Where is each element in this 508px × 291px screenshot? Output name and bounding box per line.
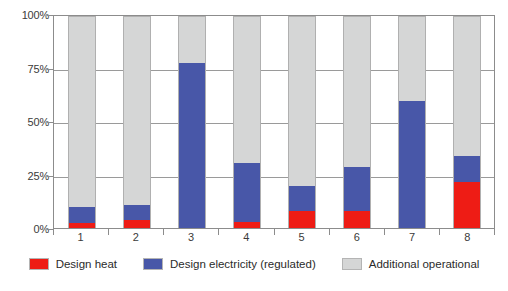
legend-label-design-heat: Design heat <box>56 258 117 270</box>
segment-additional-operational-4[interactable] <box>234 16 260 163</box>
segment-design-electricity-1[interactable] <box>69 207 95 223</box>
bar-slot-2 <box>109 16 164 228</box>
bar-slot-3 <box>164 16 219 228</box>
bar-slot-7 <box>384 16 439 228</box>
x-axis-label-4: 4 <box>219 231 274 243</box>
legend-swatch-additional-operational <box>342 258 362 270</box>
segment-additional-operational-6[interactable] <box>344 16 370 167</box>
y-axis: 100% 75% 50% 25% 0% <box>0 0 49 291</box>
stacked-bar-chart: 100% 75% 50% 25% 0% 12345678 Design heat… <box>0 0 508 291</box>
segment-additional-operational-1[interactable] <box>69 16 95 207</box>
bar-slot-4 <box>219 16 274 228</box>
legend-swatch-design-heat <box>29 258 49 270</box>
segment-additional-operational-7[interactable] <box>399 16 425 101</box>
segment-design-electricity-7[interactable] <box>399 101 425 228</box>
bar-6[interactable] <box>343 16 371 228</box>
legend-label-additional-operational: Additional operational <box>369 258 480 270</box>
legend-item-design-heat[interactable]: Design heat <box>29 258 117 270</box>
y-axis-label-50: 50% <box>5 116 49 128</box>
bar-7[interactable] <box>398 16 426 228</box>
bar-4[interactable] <box>233 16 261 228</box>
legend-label-design-electricity: Design electricity (regulated) <box>170 258 316 270</box>
bar-slot-6 <box>329 16 384 228</box>
segment-additional-operational-2[interactable] <box>124 16 150 205</box>
bar-slot-8 <box>439 16 494 228</box>
bar-8[interactable] <box>453 16 481 228</box>
segment-design-heat-6[interactable] <box>344 211 370 228</box>
segment-design-electricity-2[interactable] <box>124 205 150 220</box>
segment-design-electricity-3[interactable] <box>179 63 205 228</box>
legend-item-design-electricity[interactable]: Design electricity (regulated) <box>143 258 316 270</box>
x-axis-label-5: 5 <box>274 231 329 243</box>
bar-2[interactable] <box>123 16 151 228</box>
plot-area <box>53 15 495 229</box>
x-axis-label-7: 7 <box>385 231 440 243</box>
bar-1[interactable] <box>68 16 96 228</box>
y-axis-label-100: 100% <box>5 9 49 21</box>
x-axis: 12345678 <box>53 231 495 243</box>
bar-slot-1 <box>54 16 109 228</box>
segment-design-electricity-6[interactable] <box>344 167 370 211</box>
x-axis-label-2: 2 <box>108 231 163 243</box>
y-axis-label-25: 25% <box>5 170 49 182</box>
bar-5[interactable] <box>288 16 316 228</box>
x-axis-label-1: 1 <box>53 231 108 243</box>
x-axis-label-3: 3 <box>164 231 219 243</box>
segment-design-heat-2[interactable] <box>124 220 150 228</box>
segment-design-electricity-4[interactable] <box>234 163 260 222</box>
legend-swatch-design-electricity <box>143 258 163 270</box>
segment-design-heat-1[interactable] <box>69 223 95 228</box>
bar-slot-5 <box>274 16 329 228</box>
segment-additional-operational-8[interactable] <box>454 16 480 156</box>
y-axis-label-75: 75% <box>5 63 49 75</box>
x-axis-label-8: 8 <box>440 231 495 243</box>
segment-design-electricity-8[interactable] <box>454 156 480 181</box>
segment-design-electricity-5[interactable] <box>289 186 315 211</box>
segment-additional-operational-5[interactable] <box>289 16 315 186</box>
legend-item-additional-operational[interactable]: Additional operational <box>342 258 480 270</box>
chart-legend: Design heatDesign electricity (regulated… <box>0 258 508 270</box>
segment-additional-operational-3[interactable] <box>179 16 205 63</box>
x-axis-label-6: 6 <box>329 231 384 243</box>
bars-container <box>54 16 494 228</box>
segment-design-heat-8[interactable] <box>454 182 480 228</box>
bar-3[interactable] <box>178 16 206 228</box>
segment-design-heat-4[interactable] <box>234 222 260 228</box>
segment-design-heat-5[interactable] <box>289 211 315 228</box>
y-axis-label-0: 0% <box>5 223 49 235</box>
